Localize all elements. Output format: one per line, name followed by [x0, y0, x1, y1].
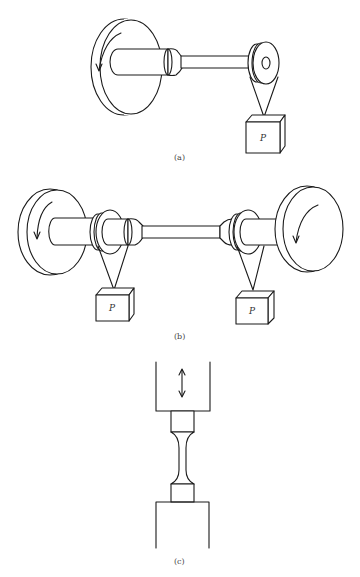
load-label-p: P — [259, 133, 267, 143]
load-box-right-b: P — [236, 291, 274, 324]
upper-grip — [156, 362, 210, 411]
bearing-a — [248, 42, 279, 84]
panel-b: P P (b) — [18, 186, 343, 341]
specimen-b — [142, 226, 220, 238]
double-arrow-icon — [179, 369, 185, 397]
panel-a: P (a) — [91, 19, 285, 162]
load-label-p-left: P — [108, 303, 116, 313]
lower-grip — [156, 502, 209, 548]
specimen-a — [181, 56, 254, 68]
caption-b: (b) — [174, 332, 185, 341]
load-box-left-b: P — [96, 288, 134, 321]
caption-a: (a) — [174, 153, 185, 162]
specimen-c — [171, 432, 194, 484]
shaft-hub — [110, 49, 168, 75]
fatigue-test-diagram: P (a) — [0, 0, 360, 577]
load-label-p-right: P — [248, 306, 256, 316]
flywheel-right-b — [275, 186, 343, 272]
panel-c: (c) — [156, 362, 210, 566]
load-box-a: P — [246, 115, 285, 153]
caption-c: (c) — [174, 557, 185, 566]
